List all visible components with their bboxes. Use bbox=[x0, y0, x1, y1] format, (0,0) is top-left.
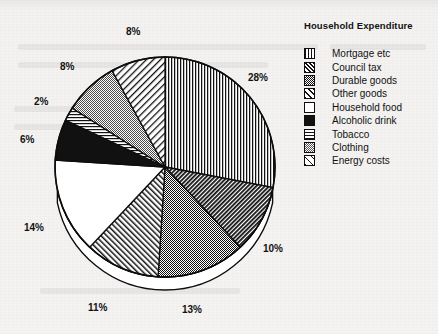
legend-item: Council tax bbox=[304, 60, 438, 73]
legend-swatch-horizontal-lines bbox=[304, 129, 315, 140]
pie-value-label: 2% bbox=[34, 96, 48, 107]
pie-value-label: 8% bbox=[60, 61, 74, 72]
legend-item-label: Other goods bbox=[332, 88, 387, 99]
legend-item-label: Household food bbox=[332, 102, 402, 113]
legend-item-label: Energy costs bbox=[332, 155, 390, 166]
legend-title: Household Expenditure bbox=[304, 20, 438, 31]
pie-value-label: 11% bbox=[88, 302, 107, 313]
pie-value-label: 6% bbox=[20, 134, 34, 145]
legend-item-label: Council tax bbox=[332, 62, 381, 73]
legend-item: Alcoholic drink bbox=[304, 114, 438, 127]
legend-item: Energy costs bbox=[304, 154, 438, 167]
pie-value-label: 14% bbox=[24, 222, 44, 233]
pie-value-label: 13% bbox=[182, 304, 202, 315]
legend-item-label: Alcoholic drink bbox=[332, 115, 396, 126]
legend-item: Other goods bbox=[304, 87, 438, 100]
legend-swatch-vertical-lines bbox=[304, 48, 315, 59]
legend: Household Expenditure Mortgage etcCounci… bbox=[298, 20, 438, 168]
legend-swatch-solid-white bbox=[304, 102, 315, 113]
legend-swatch-diagonal-hatch-dark bbox=[304, 62, 315, 73]
legend-item-label: Mortgage etc bbox=[332, 48, 390, 59]
pie-value-label: 10% bbox=[263, 243, 283, 254]
legend-item: Clothing bbox=[304, 141, 438, 154]
pie-chart: 28%10%13%11%14%6%2%8%8% bbox=[0, 0, 300, 334]
legend-swatch-stipple-dark bbox=[304, 75, 315, 86]
legend-swatch-diagonal-hatch-light bbox=[304, 88, 315, 99]
legend-swatch-solid-black bbox=[304, 115, 315, 126]
legend-item: Mortgage etc bbox=[304, 47, 438, 60]
legend-item-label: Clothing bbox=[332, 142, 369, 153]
pie-chart-svg bbox=[0, 0, 300, 334]
legend-list: Mortgage etcCouncil taxDurable goodsOthe… bbox=[298, 47, 438, 168]
legend-item: Durable goods bbox=[304, 74, 438, 87]
pie-wedge-group bbox=[55, 57, 275, 277]
pie-value-label: 8% bbox=[126, 26, 140, 37]
pie-value-label: 28% bbox=[248, 72, 268, 83]
legend-item: Household food bbox=[304, 101, 438, 114]
legend-item-label: Tobacco bbox=[332, 129, 369, 140]
legend-swatch-stipple-light bbox=[304, 142, 315, 153]
legend-item-label: Durable goods bbox=[332, 75, 397, 86]
legend-swatch-diagonal-hatch-thin bbox=[304, 155, 315, 166]
legend-item: Tobacco bbox=[304, 127, 438, 140]
